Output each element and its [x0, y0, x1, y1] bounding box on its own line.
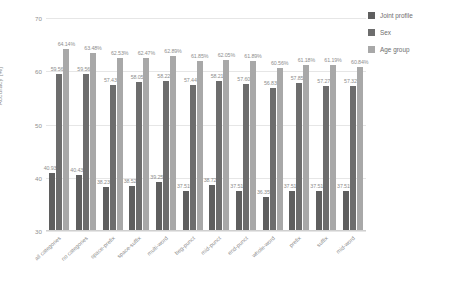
legend-label: Sex: [380, 29, 391, 36]
bar-slot: 56.83%: [270, 18, 276, 231]
bar-slot: 58.21%: [216, 18, 222, 231]
bar[interactable]: [223, 60, 229, 231]
bar-slot: 63.48%: [90, 18, 96, 231]
y-axis-tick-label: 50: [35, 121, 42, 128]
bar-slot: 37.51%: [289, 18, 295, 231]
legend-swatch-icon: [368, 29, 375, 36]
x-axis-tick-labels: all categoriesno categoriesspace-prefixs…: [46, 233, 366, 285]
bar[interactable]: [143, 58, 149, 231]
bar[interactable]: [136, 82, 142, 231]
x-axis-tick-label-text: all categories: [34, 235, 63, 262]
x-axis-tick-label-text: suffix: [315, 235, 329, 248]
x-tick-slot: multi-word: [153, 233, 180, 285]
bar-slot: 61.18%: [303, 18, 309, 231]
bar-slot: 61.19%: [330, 18, 336, 231]
bar-slot: 62.89%: [170, 18, 176, 231]
bar-group: 37.51%57.44%61.85%: [179, 18, 206, 231]
bar-chart: Accuracy [%] 3040506070 40.93%59.56%64.1…: [0, 0, 454, 287]
bar-slot: 57.85%: [296, 18, 302, 231]
bar-slot: 62.53%: [117, 18, 123, 231]
bar-slot: 57.44%: [190, 18, 196, 231]
bar-slot: 38.23%: [103, 18, 109, 231]
bar[interactable]: [343, 191, 349, 231]
bar[interactable]: [316, 191, 322, 231]
bar-slot: 59.56%: [56, 18, 62, 231]
y-axis-tick-label: 30: [35, 228, 42, 235]
y-axis-title: Accuracy [%]: [0, 46, 3, 126]
y-axis-tick-label: 40: [35, 174, 42, 181]
x-tick-slot: beg-punct: [179, 233, 206, 285]
bar-group: 37.51%57.32%60.84%: [339, 18, 366, 231]
x-axis-tick-label-text: prefix: [288, 235, 302, 249]
bar-group: 38.52%58.05%62.47%: [126, 18, 153, 231]
bar-value-label: 60.84%: [351, 59, 368, 65]
y-axis-tick-label: 60: [35, 68, 42, 75]
bar-group: 37.51%57.27%61.19%: [313, 18, 340, 231]
bar-group: 38.23%57.43%62.53%: [99, 18, 126, 231]
bar-slot: 37.51%: [236, 18, 242, 231]
x-tick-slot: end-punct: [233, 233, 260, 285]
bar-groups: 40.93%59.56%64.14%40.43%59.56%63.48%38.2…: [46, 18, 366, 231]
legend-swatch-icon: [368, 46, 375, 53]
legend-label: Age group: [380, 46, 410, 53]
bar[interactable]: [277, 68, 283, 231]
bar[interactable]: [323, 86, 329, 231]
bar-slot: 38.72%: [209, 18, 215, 231]
x-tick-slot: prefix: [286, 233, 313, 285]
bar[interactable]: [296, 83, 302, 231]
bar-slot: 37.51%: [316, 18, 322, 231]
bar[interactable]: [83, 74, 89, 231]
legend: Joint profileSexAge group: [368, 12, 448, 63]
bar[interactable]: [190, 85, 196, 231]
bar[interactable]: [56, 74, 62, 231]
bar[interactable]: [117, 58, 123, 231]
bar[interactable]: [350, 86, 356, 231]
y-axis-tick-label: 70: [35, 15, 42, 22]
bar-slot: 39.25%: [156, 18, 162, 231]
bar[interactable]: [270, 88, 276, 231]
x-tick-slot: space-suffix: [126, 233, 153, 285]
bar-slot: 40.43%: [76, 18, 82, 231]
bar[interactable]: [303, 65, 309, 231]
bar-slot: 37.51%: [183, 18, 189, 231]
bar[interactable]: [243, 84, 249, 231]
bar[interactable]: [170, 56, 176, 231]
plot-area: 3040506070 40.93%59.56%64.14%40.43%59.56…: [46, 18, 366, 231]
bar-group: 38.72%58.21%62.05%: [206, 18, 233, 231]
x-tick-slot: space-prefix: [99, 233, 126, 285]
bar-slot: 60.84%: [357, 18, 363, 231]
bar[interactable]: [49, 173, 55, 231]
bar-slot: 37.51%: [343, 18, 349, 231]
legend-item[interactable]: Joint profile: [368, 12, 448, 19]
bar-group: 37.51%57.60%61.89%: [233, 18, 260, 231]
legend-label: Joint profile: [380, 12, 413, 19]
bar-group: 36.35%56.83%60.56%: [259, 18, 286, 231]
bar-group: 40.43%59.56%63.48%: [73, 18, 100, 231]
bar[interactable]: [330, 65, 336, 231]
bar-slot: 57.60%: [243, 18, 249, 231]
bar-slot: 36.35%: [263, 18, 269, 231]
bar[interactable]: [357, 67, 363, 231]
bar-slot: 57.27%: [323, 18, 329, 231]
bar[interactable]: [250, 61, 256, 231]
bar[interactable]: [197, 61, 203, 231]
bar[interactable]: [216, 81, 222, 231]
bar-slot: 57.32%: [350, 18, 356, 231]
x-tick-slot: mid-word: [339, 233, 366, 285]
bar-group: 40.93%59.56%64.14%: [46, 18, 73, 231]
bar[interactable]: [110, 85, 116, 231]
x-tick-slot: suffix: [313, 233, 340, 285]
bar[interactable]: [90, 53, 96, 231]
x-tick-slot: whole-word: [259, 233, 286, 285]
legend-item[interactable]: Sex: [368, 29, 448, 36]
legend-item[interactable]: Age group: [368, 46, 448, 53]
bar-slot: 62.47%: [143, 18, 149, 231]
legend-swatch-icon: [368, 12, 375, 19]
bar-slot: 61.85%: [197, 18, 203, 231]
bar[interactable]: [163, 81, 169, 231]
bar-slot: 60.56%: [277, 18, 283, 231]
bar-group: 37.51%57.85%61.18%: [286, 18, 313, 231]
bar-group: 39.25%58.22%62.89%: [153, 18, 180, 231]
x-tick-slot: mid-punct: [206, 233, 233, 285]
bar[interactable]: [63, 49, 69, 231]
